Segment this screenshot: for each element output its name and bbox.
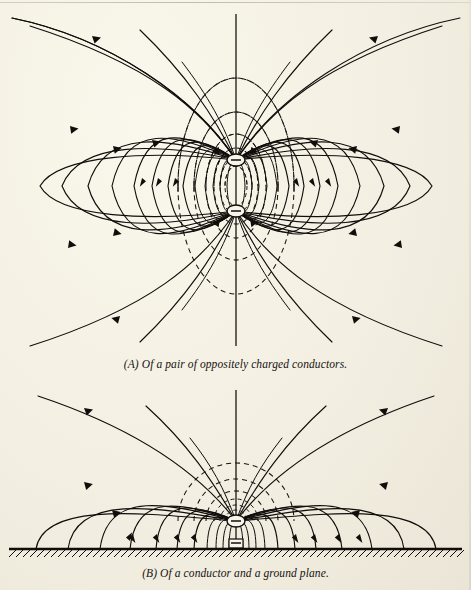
panel-b-ground-plane-field-map (0, 382, 471, 557)
panel-a-dipole-field-map (0, 0, 471, 355)
caption-panel-a: (A) Of a pair of oppositely charged cond… (0, 358, 471, 370)
caption-a-text: (A) Of a pair of oppositely charged cond… (124, 358, 347, 370)
ground-hatching (9, 550, 464, 557)
caption-b-text: (B) Of a conductor and a ground plane. (142, 567, 329, 579)
scanned-page: (A) Of a pair of oppositely charged cond… (0, 0, 471, 590)
caption-panel-b: (B) Of a conductor and a ground plane. (0, 567, 471, 579)
field-arrowheads-a (68, 36, 402, 324)
ground-plane (9, 549, 464, 557)
panel-a-svg (0, 0, 471, 355)
panel-b-svg (0, 382, 471, 557)
